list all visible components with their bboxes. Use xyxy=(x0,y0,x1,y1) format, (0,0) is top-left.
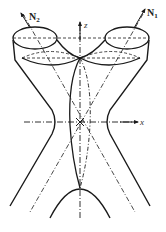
middle-dashed-ellipses xyxy=(22,52,140,59)
right-cylinder-top-ellipse xyxy=(105,27,149,49)
n1-axis-line xyxy=(30,14,143,212)
z-axis-label: z xyxy=(83,20,88,30)
cylinder-intersection-diagram: N2 N1 z x xyxy=(0,0,166,232)
n2-label: N2 xyxy=(29,11,40,24)
n1-label: N1 xyxy=(147,7,158,20)
n1-vector-arrow xyxy=(134,9,145,28)
x-axis-label: x xyxy=(139,117,144,127)
